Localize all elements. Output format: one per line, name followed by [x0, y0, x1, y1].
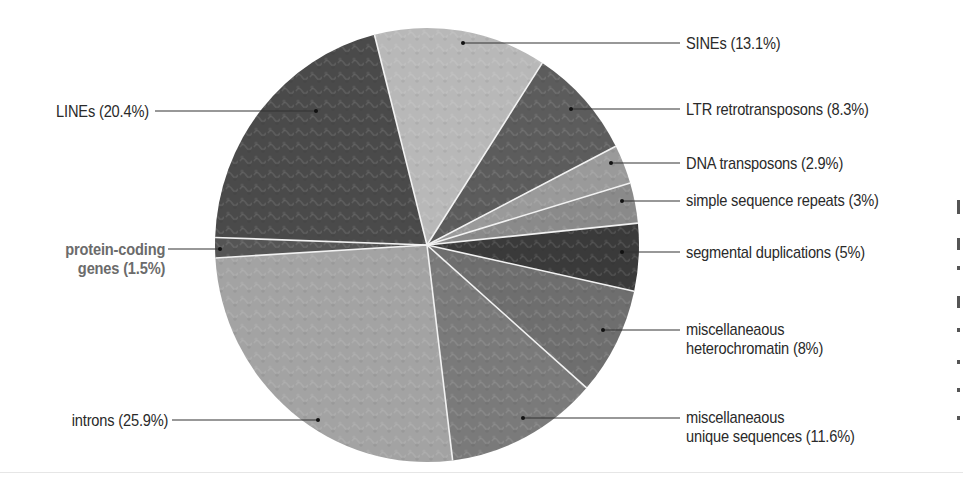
label-protein-line2: genes (1.5%) [65, 259, 165, 278]
label-heterochromatin-line2: heterochromatin (8%) [686, 339, 823, 358]
label-unique-line1: miscellaneaous [686, 408, 855, 427]
label-ltr-retrotransposons: LTR retrotransposons (8.3%) [686, 100, 869, 119]
leader-dot-dna [609, 161, 613, 165]
label-heterochromatin: miscellaneaous heterochromatin (8%) [686, 320, 823, 358]
label-protein-coding-genes: protein-coding genes (1.5%) [65, 240, 165, 278]
leader-dot-ltr [569, 107, 573, 111]
bottom-divider [0, 472, 963, 473]
label-simple-sequence-repeats: simple sequence repeats (3%) [686, 191, 879, 210]
cropped-edge-text [957, 200, 963, 440]
label-introns: introns (25.9%) [71, 411, 168, 430]
label-sines: SINEs (13.1%) [686, 34, 780, 53]
label-segmental-duplications: segmental duplications (5%) [686, 243, 865, 262]
leader-dot-segdup [620, 250, 624, 254]
slice-texture [215, 245, 452, 462]
leader-dot-ssr [620, 199, 624, 203]
leader-dot-protein-coding [218, 247, 222, 251]
label-heterochromatin-line1: miscellaneaous [686, 320, 823, 339]
leader-dot-lines [314, 109, 318, 113]
label-lines: LINEs (20.4%) [56, 102, 149, 121]
leader-dot-heterochromatin [601, 328, 605, 332]
label-protein-line1: protein-coding [65, 240, 165, 259]
leader-dot-introns [316, 418, 320, 422]
genome-composition-pie-chart: SINEs (13.1%) LTR retrotransposons (8.3%… [0, 0, 963, 487]
label-unique-line2: unique sequences (11.6%) [686, 427, 855, 446]
label-dna-transposons: DNA transposons (2.9%) [686, 154, 843, 173]
leader-dot-sines [461, 41, 465, 45]
leader-dot-unique [521, 416, 525, 420]
label-unique-sequences: miscellaneaous unique sequences (11.6%) [686, 408, 855, 446]
